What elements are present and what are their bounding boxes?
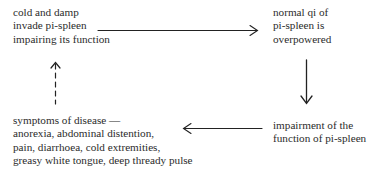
arrow-up-dashed-icon (51, 63, 60, 105)
arrow-right-icon (98, 26, 258, 36)
arrow-down-icon (301, 60, 312, 104)
arrow-left-icon (184, 124, 263, 134)
arrows-layer (0, 0, 384, 178)
